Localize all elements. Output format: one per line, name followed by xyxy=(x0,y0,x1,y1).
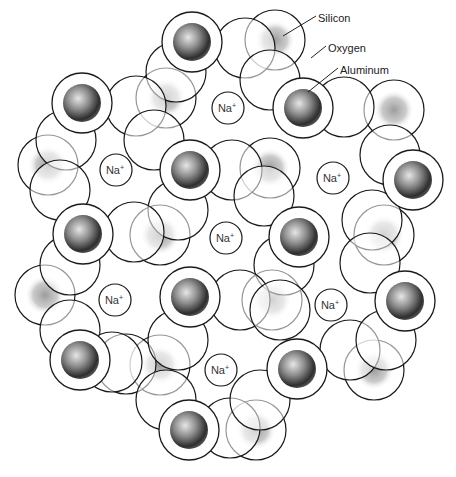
aluminum-atom xyxy=(284,89,322,127)
silicon-atom xyxy=(171,278,209,316)
silicon-atom xyxy=(64,215,102,253)
silicon-atom xyxy=(394,161,432,199)
sodium-ion: Na+ xyxy=(205,354,237,386)
silicon-atom xyxy=(280,218,318,256)
legend-label-silicon: Silicon xyxy=(318,12,350,24)
sodium-ion: Na+ xyxy=(210,222,242,254)
sodium-ion: Na+ xyxy=(315,289,347,321)
silicon-atom xyxy=(61,341,99,379)
silicon-atom xyxy=(63,84,101,122)
sodium-ion: Na+ xyxy=(212,92,244,124)
silicon-atom xyxy=(173,23,211,61)
sodium-ion: Na+ xyxy=(317,162,349,194)
silicon-atom xyxy=(170,411,208,449)
silicon-atom xyxy=(386,282,424,320)
sodium-ion: Na+ xyxy=(99,284,131,316)
aluminum-atom xyxy=(278,350,316,388)
back-cation-sphere xyxy=(374,90,414,130)
aluminosilicate-diagram: Na+Na+Na+Na+Na+Na+Na+ SiliconOxygenAlumi… xyxy=(0,0,456,477)
oxygen-atom xyxy=(250,280,310,340)
legend-label-oxygen: Oxygen xyxy=(328,42,366,54)
legend-label-aluminum: Aluminum xyxy=(340,64,389,76)
leader-line xyxy=(311,46,326,58)
silicon-atom xyxy=(171,151,209,189)
sodium-ion: Na+ xyxy=(100,154,132,186)
